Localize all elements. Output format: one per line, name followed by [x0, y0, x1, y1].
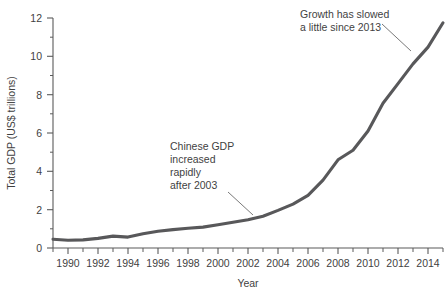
gdp-series-line: [53, 23, 443, 241]
x-tick-label-1996: 1996: [146, 257, 170, 269]
x-tick-label-2008: 2008: [326, 257, 350, 269]
y-axis-title: Total GDP (US$ trillions): [5, 76, 17, 190]
x-tick-label-1990: 1990: [56, 257, 80, 269]
annotation-rapid-increase-line-4: after 2003: [170, 179, 217, 191]
x-tick-label-2014: 2014: [416, 257, 440, 269]
x-axis-ticks: 1990 1992 1994 1996 1998 2000 2002 2004 …: [53, 248, 443, 269]
annotation-growth-slowed-leader: [382, 24, 411, 51]
x-tick-label-1992: 1992: [86, 257, 110, 269]
chart-canvas: 12 10 8 6 4 2 0 1990 19: [0, 0, 448, 294]
x-tick-label-1998: 1998: [176, 257, 200, 269]
y-tick-label-10: 10: [30, 50, 42, 62]
y-tick-label-0: 0: [36, 242, 42, 254]
y-tick-label-8: 8: [36, 89, 42, 101]
annotation-rapid-increase-line-2: increased: [170, 153, 216, 165]
y-tick-label-12: 12: [30, 12, 42, 24]
gdp-line-chart: 12 10 8 6 4 2 0 1990 19: [0, 0, 448, 294]
annotation-rapid-increase-leader: [228, 192, 253, 215]
x-tick-label-2000: 2000: [206, 257, 230, 269]
y-axis-ticks: 12 10 8 6 4 2 0: [30, 12, 53, 254]
x-tick-label-2010: 2010: [356, 257, 380, 269]
x-tick-label-2012: 2012: [386, 257, 410, 269]
annotation-growth-slowed-line-1: Growth has slowed: [300, 8, 389, 20]
y-tick-label-2: 2: [36, 204, 42, 216]
annotation-growth-slowed: Growth has slowed a little since 2013: [300, 8, 411, 51]
x-tick-label-2006: 2006: [296, 257, 320, 269]
x-tick-label-2004: 2004: [266, 257, 290, 269]
x-tick-label-2002: 2002: [236, 257, 260, 269]
annotation-rapid-increase-line-1: Chinese GDP: [170, 140, 234, 152]
x-axis-title: Year: [237, 277, 259, 289]
annotation-rapid-increase-line-3: rapidly: [170, 166, 202, 178]
y-tick-label-6: 6: [36, 127, 42, 139]
annotation-growth-slowed-line-2: a little since 2013: [300, 21, 381, 33]
y-tick-label-4: 4: [36, 165, 42, 177]
x-tick-label-1994: 1994: [116, 257, 140, 269]
annotation-rapid-increase: Chinese GDP increased rapidly after 2003: [170, 140, 253, 215]
